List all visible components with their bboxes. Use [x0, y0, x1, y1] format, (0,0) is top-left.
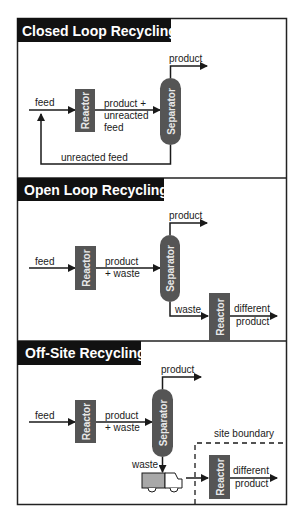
stream-label-line2: unreacted: [104, 110, 148, 121]
second-reactor-label: Reactor: [215, 458, 226, 495]
reactor-label: Reactor: [80, 92, 91, 129]
separator-label: Separator: [158, 400, 169, 447]
panel-title: Open Loop Recycling: [24, 182, 168, 198]
stream-label-line3: feed: [104, 122, 123, 133]
output-label-line2: product: [235, 478, 269, 489]
stream-label-line1: product +: [104, 98, 146, 109]
feed-label: feed: [35, 97, 54, 108]
product-label: product: [169, 53, 203, 64]
stream-label-line2: + waste: [105, 268, 140, 279]
feed-label: feed: [35, 410, 54, 421]
product-label: product: [169, 210, 203, 221]
output-label-line1: different: [234, 303, 270, 314]
site-boundary-label: site boundary: [214, 428, 274, 439]
stream-label-line2: + waste: [105, 422, 140, 433]
panel-title: Off-Site Recycling: [25, 345, 146, 361]
recycling-diagram: Closed Loop Recycling feed Reactor produ…: [0, 0, 302, 520]
product-label: product: [161, 364, 195, 375]
separator-label: Separator: [165, 245, 176, 292]
reactor-label: Reactor: [81, 403, 92, 440]
waste-label: waste: [131, 459, 159, 470]
stream-label-line1: product: [105, 410, 139, 421]
separator-label: Separator: [166, 88, 177, 135]
output-label-line2: product: [236, 316, 270, 327]
second-reactor-label: Reactor: [215, 298, 226, 335]
output-label-line1: different: [233, 465, 269, 476]
feed-label: feed: [35, 256, 54, 267]
recycle-label: unreacted feed: [61, 152, 128, 163]
panel-title: Closed Loop Recycling: [22, 23, 177, 39]
waste-label: waste: [174, 304, 202, 315]
stream-label-line1: product: [105, 256, 139, 267]
reactor-label: Reactor: [81, 249, 92, 286]
